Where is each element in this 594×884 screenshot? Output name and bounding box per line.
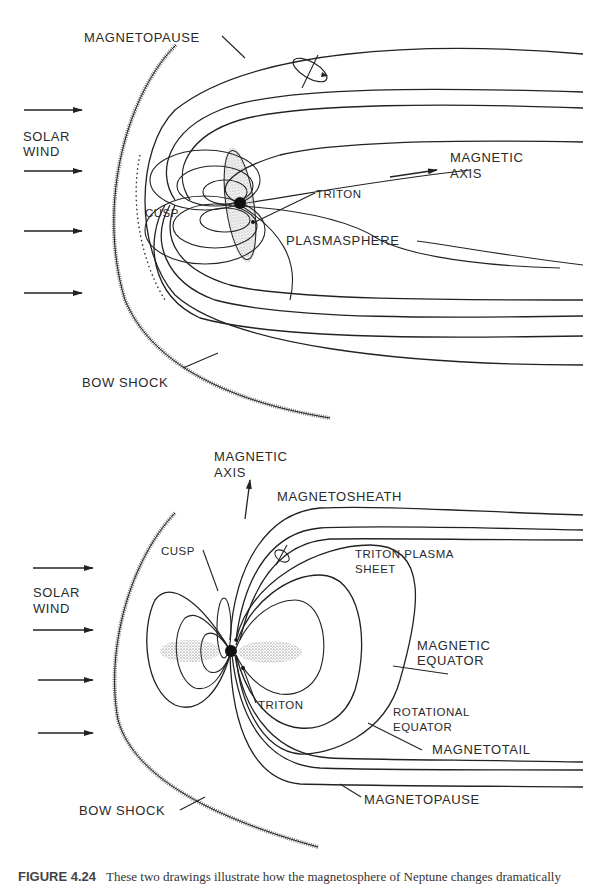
label-cusp: CUSP: [161, 545, 195, 557]
leader-line: [183, 353, 218, 368]
label-bow-shock: BOW SHOCK: [82, 375, 168, 390]
bottom-diagram: MAGNETIC AXIS MAGNETOSHEATH CUSP TRITON …: [33, 449, 583, 847]
neptune-planet: [225, 645, 237, 657]
label-magnetopause: MAGNETOPAUSE: [84, 30, 200, 45]
magnetic-axis-arrow-icon: [390, 170, 437, 177]
label-magnetic-axis-2: AXIS: [450, 166, 482, 181]
caption-text: These two drawings illustrate how the ma…: [106, 869, 561, 884]
label-rotational-equator-1: ROTATIONAL: [393, 706, 470, 718]
label-triton: TRITON: [258, 699, 304, 711]
label-magnetic-equator-2: EQUATOR: [417, 653, 484, 668]
label-solar-wind-2: WIND: [33, 601, 70, 616]
label-solar-wind-1: SOLAR: [23, 129, 70, 144]
top-diagram: MAGNETOPAUSE SOLAR WIND MAGNETIC AXIS TR…: [23, 30, 583, 418]
triton-moon: [251, 220, 255, 224]
leader-line: [340, 784, 361, 797]
label-bow-shock: BOW SHOCK: [79, 803, 165, 818]
label-solar-wind-2: WIND: [23, 144, 60, 159]
plasma-torus-right: [238, 641, 302, 663]
triton-moon-marker: [234, 638, 238, 642]
label-triton-plasma-sheet-2: SHEET: [355, 563, 396, 575]
magnetopause-boundary: [145, 48, 583, 365]
leader-line: [203, 550, 218, 591]
leader-line: [222, 36, 245, 58]
leader-line: [417, 241, 583, 265]
label-magnetopause: MAGNETOPAUSE: [364, 792, 480, 807]
field-line: [225, 141, 583, 203]
label-cusp: CUSP: [145, 207, 179, 219]
neptune-planet: [234, 197, 246, 209]
label-magnetic-axis-1: MAGNETIC: [214, 449, 287, 464]
figure-caption: FIGURE 4.24These two drawings illustrate…: [18, 869, 594, 884]
dipole-field-loops: [145, 150, 560, 300]
label-triton: TRITON: [316, 188, 362, 200]
label-plasmasphere: PLASMASPHERE: [286, 233, 399, 248]
label-magnetosheath: MAGNETOSHEATH: [277, 489, 402, 504]
figure-number: FIGURE 4.24: [18, 869, 96, 884]
label-triton-plasma-sheet-1: TRITON PLASMA: [355, 548, 454, 560]
label-magnetic-axis-1: MAGNETIC: [450, 150, 523, 165]
label-solar-wind-1: SOLAR: [33, 585, 80, 600]
label-magnetic-axis-2: AXIS: [214, 465, 246, 480]
label-magnetic-equator-1: MAGNETIC: [417, 638, 490, 653]
label-magnetotail: MAGNETOTAIL: [432, 742, 531, 757]
figure-canvas: MAGNETOPAUSE SOLAR WIND MAGNETIC AXIS TR…: [0, 0, 594, 884]
magnetic-axis-arrow-icon: [245, 480, 250, 519]
plasma-torus-left: [160, 640, 220, 662]
label-rotational-equator-2: EQUATOR: [393, 721, 452, 733]
